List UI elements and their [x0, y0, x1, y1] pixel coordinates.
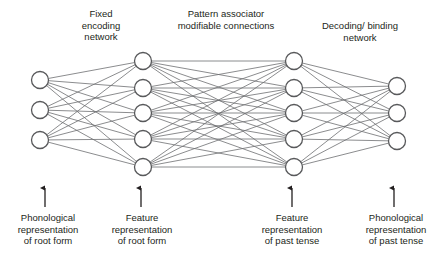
- network-node-feature-root-layer-1: [135, 53, 152, 70]
- connection-line: [48, 112, 135, 136]
- connection-line: [303, 86, 389, 88]
- network-node-feature-past-layer-3: [286, 105, 303, 122]
- connection-line: [302, 117, 390, 163]
- connection-line: [301, 66, 391, 136]
- network-node-feature-root-layer-2: [135, 80, 152, 97]
- connection-line: [302, 90, 390, 135]
- network-node-phonological-input-layer-1: [32, 72, 49, 89]
- network-node-feature-past-layer-1: [286, 53, 303, 70]
- connection-line: [48, 63, 134, 79]
- connection-line: [302, 90, 388, 111]
- network-node-feature-past-layer-4: [286, 131, 303, 148]
- label-feature-representation-of-root-form: Feature representation of root form: [96, 212, 188, 247]
- network-node-phonological-output-layer-1: [389, 78, 406, 95]
- connection-line: [47, 84, 135, 135]
- network-node-phonological-output-layer-2: [389, 105, 406, 122]
- title-pattern-associator: Pattern associator modifiable connection…: [150, 8, 302, 31]
- connection-line: [47, 114, 135, 163]
- network-node-feature-root-layer-5: [135, 159, 152, 176]
- label-phonological-representation-of-root-form: Phonological representation of root form: [2, 212, 94, 247]
- connection-line: [302, 92, 390, 137]
- label-feature-representation-of-past-tense: Feature representation of past tense: [246, 212, 338, 247]
- io-arrows: [45, 188, 394, 207]
- connection-edges: [46, 61, 390, 167]
- network-node-feature-root-layer-3: [135, 105, 152, 122]
- connection-line: [301, 91, 391, 162]
- connection-line: [302, 143, 389, 165]
- connection-line: [48, 92, 136, 136]
- network-diagram: Fixed encoding network Pattern associato…: [0, 0, 446, 265]
- network-node-feature-root-layer-4: [135, 131, 152, 148]
- connection-line: [49, 139, 135, 140]
- title-decoding-binding-network: Decoding/ binding network: [296, 20, 424, 43]
- network-node-phonological-input-layer-3: [32, 132, 49, 149]
- connection-line: [302, 88, 389, 111]
- network-node-feature-past-layer-5: [286, 159, 303, 176]
- title-fixed-encoding-network: Fixed encoding network: [55, 8, 147, 43]
- connection-line: [49, 110, 135, 113]
- connection-line: [48, 81, 134, 88]
- label-phonological-representation-of-past-tense: Phonological representation of past tens…: [348, 212, 444, 247]
- connection-line: [48, 142, 135, 165]
- connection-line: [48, 83, 135, 111]
- connection-line: [302, 63, 388, 84]
- network-node-feature-past-layer-2: [286, 80, 303, 97]
- network-node-phonological-input-layer-2: [32, 102, 49, 119]
- network-node-phonological-output-layer-3: [389, 133, 406, 150]
